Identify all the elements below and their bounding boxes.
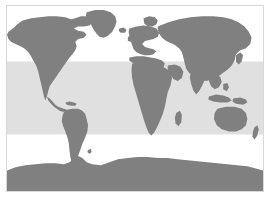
map-frame-border	[6, 5, 264, 192]
world-map-canvas	[7, 6, 263, 191]
world-map-figure	[0, 0, 270, 198]
